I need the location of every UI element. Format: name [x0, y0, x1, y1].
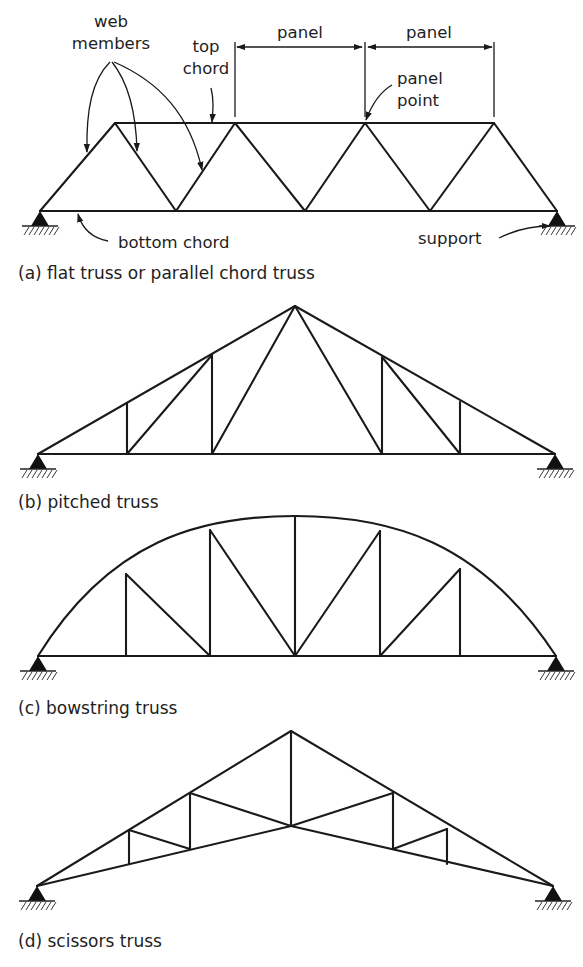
truss-member	[295, 306, 555, 454]
truss-member	[37, 826, 291, 886]
truss-drawings	[19, 123, 576, 910]
truss-member	[38, 306, 295, 454]
support-label: support	[418, 229, 482, 248]
flat-truss	[22, 123, 576, 235]
web-members-label-line2: members	[72, 34, 150, 53]
truss-member	[393, 829, 447, 849]
caption-scissors-truss: (d) scissors truss	[18, 931, 162, 951]
truss-member	[212, 306, 295, 454]
annotation-labels: web members top chord panel panel panel …	[72, 12, 482, 252]
arched-top-chord	[38, 516, 556, 656]
truss-member	[129, 830, 190, 849]
truss-member	[176, 123, 235, 211]
truss-member	[295, 531, 380, 656]
pin-support-icon	[22, 211, 59, 235]
scissors-truss	[19, 731, 572, 910]
captions: (a) flat truss or parallel chord truss (…	[18, 263, 315, 951]
top-chord-arrow	[211, 88, 213, 122]
truss-member	[126, 574, 210, 656]
truss-member	[380, 569, 460, 656]
truss-member	[295, 306, 382, 454]
pin-support-icon	[539, 211, 576, 235]
caption-pitched-truss: (b) pitched truss	[18, 492, 159, 512]
pin-support-icon	[20, 454, 57, 478]
truss-member	[210, 530, 295, 656]
truss-member	[365, 123, 430, 211]
pin-support-icon	[537, 454, 574, 478]
truss-member	[382, 357, 460, 454]
bottom-chord-arrow	[78, 214, 108, 241]
panel-label-2: panel	[406, 23, 452, 42]
pin-support-icon	[535, 886, 572, 910]
truss-member	[291, 793, 393, 826]
top-chord-label-line2: chord	[183, 59, 230, 78]
truss-member	[291, 731, 553, 886]
truss-member	[291, 826, 553, 886]
panel-point-arrow	[366, 85, 392, 120]
truss-member	[430, 123, 494, 211]
truss-member	[40, 123, 115, 211]
panel-point-label-line2: point	[397, 91, 440, 110]
pin-support-icon	[538, 656, 575, 680]
truss-member	[127, 355, 212, 454]
caption-bowstring-truss: (c) bowstring truss	[18, 698, 178, 718]
caption-flat-truss: (a) flat truss or parallel chord truss	[18, 263, 315, 283]
web-members-label-line1: web	[94, 12, 128, 31]
truss-member	[190, 793, 291, 826]
bottom-chord-label: bottom chord	[118, 233, 230, 252]
truss-member	[37, 731, 291, 886]
web-members-arrow-3	[114, 62, 202, 170]
truss-types-figure: web members top chord panel panel panel …	[0, 0, 583, 967]
panel-point-label-line1: panel	[397, 69, 443, 88]
pin-support-icon	[19, 886, 56, 910]
truss-member	[305, 123, 365, 211]
pitched-truss	[20, 306, 574, 478]
panel-label-1: panel	[277, 23, 323, 42]
truss-member	[115, 123, 176, 211]
bowstring-truss	[20, 516, 575, 680]
truss-member	[235, 123, 305, 211]
truss-member	[494, 123, 557, 211]
top-chord-label-line1: top	[192, 37, 219, 56]
pin-support-icon	[20, 656, 57, 680]
web-members-arrow-1	[87, 62, 110, 152]
